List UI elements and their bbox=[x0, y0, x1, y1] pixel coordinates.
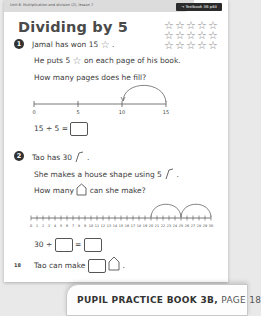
svg-text:19: 19 bbox=[143, 224, 147, 228]
star-outline-icon: ☆ bbox=[175, 41, 186, 51]
workbook-page: Unit 6: Multiplication and division (2),… bbox=[4, 0, 228, 282]
star-outline-icon: ☆ bbox=[186, 41, 197, 51]
svg-text:10: 10 bbox=[119, 109, 125, 115]
question-text: can she make? bbox=[90, 186, 146, 195]
straw-icon bbox=[164, 168, 174, 180]
jump-arc bbox=[181, 204, 211, 217]
footer-label: PUPIL PRACTICE BOOK 3B, PAGE 18 bbox=[77, 295, 261, 305]
svg-text:16: 16 bbox=[125, 224, 129, 228]
conclusion-text: Tao can make bbox=[34, 261, 85, 270]
divisor-box[interactable] bbox=[55, 238, 73, 252]
svg-text:22: 22 bbox=[161, 224, 165, 228]
number-line-0-30: 0123456789101112131415161718192021222324… bbox=[4, 196, 228, 230]
svg-text:7: 7 bbox=[72, 224, 74, 228]
textbook-link-button[interactable]: → Textbook 3B p84 bbox=[176, 3, 222, 11]
answer-box[interactable] bbox=[84, 238, 102, 252]
question-text: He puts 5 bbox=[34, 56, 70, 65]
svg-text:3: 3 bbox=[48, 224, 50, 228]
equals-sign: = bbox=[75, 240, 81, 249]
svg-text:11: 11 bbox=[95, 224, 99, 228]
svg-text:2: 2 bbox=[42, 224, 44, 228]
question-2-conclusion: Tao can make . bbox=[34, 256, 125, 273]
svg-text:30: 30 bbox=[209, 224, 213, 228]
star-outline-icon: ☆ bbox=[164, 41, 175, 51]
svg-text:23: 23 bbox=[167, 224, 171, 228]
svg-text:5: 5 bbox=[76, 109, 79, 115]
unit-header-bar: Unit 6: Multiplication and division (2),… bbox=[4, 0, 194, 12]
conclusion-text: . bbox=[123, 261, 125, 270]
question-text: How many bbox=[34, 186, 74, 195]
question-text: on each page of his book. bbox=[84, 56, 181, 65]
house-icon bbox=[76, 183, 87, 196]
svg-text:21: 21 bbox=[155, 224, 159, 228]
svg-text:5: 5 bbox=[60, 224, 62, 228]
book-page-footer: PUPIL PRACTICE BOOK 3B, PAGE 18 bbox=[66, 284, 248, 316]
page-number: 18 bbox=[14, 262, 21, 268]
svg-text:4: 4 bbox=[54, 224, 56, 228]
question-2-line-2: She makes a house shape using 5 . bbox=[34, 168, 179, 180]
book-title: PUPIL PRACTICE BOOK 3B, bbox=[77, 295, 218, 305]
equation-text: 15 ÷ 5 = bbox=[34, 124, 68, 133]
svg-text:25: 25 bbox=[179, 224, 183, 228]
page-title: Dividing by 5 bbox=[18, 19, 128, 35]
number-line-0-15: 0 5 10 15 bbox=[4, 84, 228, 116]
star-icon: ☆ bbox=[101, 39, 110, 50]
svg-text:6: 6 bbox=[66, 224, 68, 228]
svg-text:1: 1 bbox=[36, 224, 38, 228]
svg-text:20: 20 bbox=[149, 224, 153, 228]
house-icon bbox=[108, 256, 120, 271]
star-icon: ☆ bbox=[73, 55, 82, 66]
svg-text:10: 10 bbox=[89, 224, 93, 228]
svg-text:24: 24 bbox=[173, 224, 177, 228]
svg-text:9: 9 bbox=[84, 224, 86, 228]
jump-arc bbox=[151, 204, 181, 217]
svg-text:0: 0 bbox=[30, 224, 32, 228]
question-2-line-3: How many can she make? bbox=[34, 183, 146, 196]
unit-label: Unit 6: Multiplication and division (2),… bbox=[10, 3, 93, 7]
question-1-equation: 15 ÷ 5 = bbox=[34, 122, 88, 136]
svg-text:12: 12 bbox=[101, 224, 105, 228]
svg-text:18: 18 bbox=[137, 224, 141, 228]
svg-text:28: 28 bbox=[197, 224, 201, 228]
star-outline-icon: ☆ bbox=[208, 41, 219, 51]
book-page: PAGE 18 bbox=[221, 295, 261, 305]
svg-text:13: 13 bbox=[107, 224, 111, 228]
straw-icon bbox=[74, 151, 84, 163]
answer-box[interactable] bbox=[70, 122, 88, 136]
question-2-line-1: Tao has 30 . bbox=[32, 151, 89, 163]
svg-text:17: 17 bbox=[131, 224, 135, 228]
equation-text: 30 ÷ bbox=[34, 240, 52, 249]
question-text: Jamal has won 15 bbox=[32, 40, 98, 49]
question-text: She makes a house shape using 5 bbox=[34, 170, 162, 179]
question-text: . bbox=[112, 40, 114, 49]
question-1-line-1: Jamal has won 15 ☆ . bbox=[32, 39, 114, 50]
star-grid: ☆☆☆☆☆ ☆☆☆☆☆ ☆☆☆☆☆ bbox=[164, 21, 219, 51]
svg-text:26: 26 bbox=[185, 224, 189, 228]
svg-text:0: 0 bbox=[32, 109, 35, 115]
question-text: Tao has 30 bbox=[32, 153, 72, 162]
question-1-line-2: He puts 5 ☆ on each page of his book. bbox=[34, 55, 181, 66]
answer-box[interactable] bbox=[88, 259, 106, 273]
svg-text:27: 27 bbox=[191, 224, 195, 228]
question-2-equation: 30 ÷ = bbox=[34, 238, 102, 252]
svg-text:29: 29 bbox=[203, 224, 207, 228]
question-number-badge: 1 bbox=[14, 39, 24, 49]
svg-text:8: 8 bbox=[78, 224, 80, 228]
question-number-badge: 2 bbox=[14, 151, 24, 161]
question-text: . bbox=[177, 170, 179, 179]
question-1-line-3: How many pages does he fill? bbox=[34, 73, 146, 82]
question-text: . bbox=[87, 153, 89, 162]
svg-text:15: 15 bbox=[163, 109, 169, 115]
svg-text:14: 14 bbox=[113, 224, 117, 228]
svg-text:15: 15 bbox=[119, 224, 123, 228]
jump-arc bbox=[123, 85, 166, 102]
star-outline-icon: ☆ bbox=[197, 41, 208, 51]
